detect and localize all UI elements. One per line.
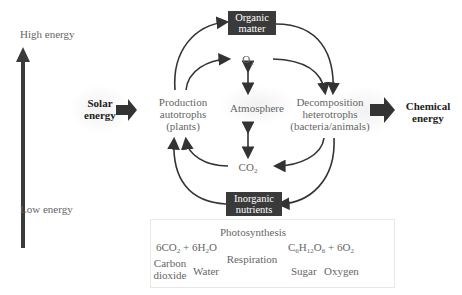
sugar-caption: Sugar [291, 265, 317, 277]
arrow-co2-to-production [186, 140, 228, 166]
oxygen-caption: Oxygen [324, 265, 359, 277]
equation-reactants: 6CO2 + 6H2O [156, 241, 217, 257]
low-energy-label: Low energy [20, 203, 73, 215]
arrow-organic-to-decomposition [276, 24, 333, 92]
energy-axis-arrowhead [16, 47, 30, 62]
atmosphere-label: Atmosphere [222, 102, 292, 114]
arrow-inorganic-to-production [174, 140, 226, 204]
carbon-dioxide-caption: Carbon dioxide [150, 257, 190, 281]
arrow-production-to-organic [175, 22, 226, 90]
co2-label: CO2 [234, 161, 262, 177]
water-caption: Water [193, 265, 219, 277]
solar-energy-label: Solar energy [78, 97, 122, 121]
arrow-decomposition-to-inorganic [280, 138, 334, 204]
arrow-o2-to-decomposition [273, 59, 325, 92]
decomposition-heterotrophs-label: Decomposition heterotrophs (bacteria/ani… [285, 96, 375, 132]
o2-label: O2 [238, 53, 258, 69]
organic-matter-box: Organic matter [228, 11, 276, 35]
inorganic-nutrients-box: Inorganic nutrients [226, 192, 282, 216]
equation-products: C6H12O6 + 6O2 [288, 241, 354, 257]
arrow-decomposition-to-co2 [276, 138, 324, 166]
production-autotrophs-label: Production autotrophs (plants) [148, 96, 218, 132]
high-energy-label: High energy [20, 28, 74, 40]
chemical-energy-label: Chemical energy [400, 100, 456, 124]
photosynthesis-label: Photosynthesis [220, 226, 282, 238]
respiration-label: Respiration [224, 253, 280, 265]
arrow-production-to-o2 [186, 59, 228, 90]
